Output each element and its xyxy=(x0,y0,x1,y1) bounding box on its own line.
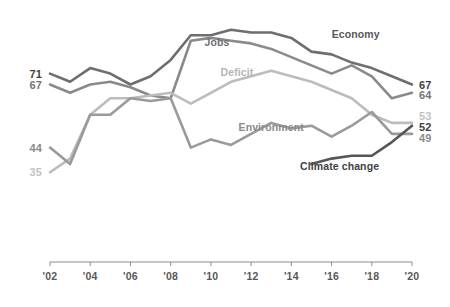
series-group xyxy=(50,30,412,173)
series-line-environment xyxy=(50,98,412,164)
line-chart: EconomyJobsDeficitEnvironmentClimate cha… xyxy=(0,0,450,307)
chart-canvas: EconomyJobsDeficitEnvironmentClimate cha… xyxy=(0,0,450,307)
x-axis-tick-label: '08 xyxy=(163,270,178,282)
x-axis-tick-label: '20 xyxy=(405,270,420,282)
x-axis xyxy=(50,262,412,266)
series-label-deficit: Deficit xyxy=(221,66,254,78)
series-label-climate-change: Climate change xyxy=(300,160,379,172)
right-value-label-group: 6764535249 xyxy=(419,79,432,145)
left-value-label: 35 xyxy=(30,166,42,178)
x-axis-tick-label: '10 xyxy=(204,270,219,282)
x-axis-tick-label: '12 xyxy=(244,270,259,282)
x-axis-tick-label: '04 xyxy=(83,270,98,282)
x-axis-tick-label: '14 xyxy=(284,270,299,282)
x-axis-tick-label: '16 xyxy=(324,270,339,282)
right-value-label: 64 xyxy=(419,89,432,101)
series-label-economy: Economy xyxy=(332,28,380,40)
series-label-jobs: Jobs xyxy=(204,36,229,48)
left-value-label: 44 xyxy=(30,142,43,154)
series-label-environment: Environment xyxy=(239,121,305,133)
series-line-climate-change xyxy=(311,126,412,164)
x-axis-tick-label: '18 xyxy=(364,270,379,282)
x-axis-tick-labels: '02'04'06'08'10'12'14'16'18'20 xyxy=(43,270,420,282)
x-axis-tick-label: '02 xyxy=(43,270,58,282)
left-value-label-group: 71674435 xyxy=(30,68,43,179)
x-axis-tick-label: '06 xyxy=(123,270,138,282)
left-value-label: 67 xyxy=(30,79,42,91)
right-value-label: 49 xyxy=(419,132,431,144)
